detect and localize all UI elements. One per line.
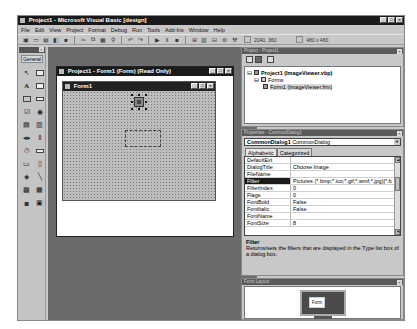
copy-icon[interactable]: ⧉ xyxy=(89,36,97,44)
toolbox-tab-general[interactable]: General xyxy=(21,55,43,63)
dirlistbox-tool-icon[interactable]: ▭ xyxy=(21,159,32,169)
tree-item-form1[interactable]: Form1 (ImageViewer.frm) xyxy=(247,83,398,90)
break-icon[interactable]: ‖ xyxy=(163,36,171,44)
resize-handle[interactable] xyxy=(145,108,147,110)
commondialog-control[interactable] xyxy=(134,97,144,107)
resize-handle[interactable] xyxy=(131,101,133,103)
menu-edit[interactable]: Edit xyxy=(35,27,44,33)
timer-tool-icon[interactable]: ⏱ xyxy=(21,146,32,156)
property-row[interactable]: FilterIndex0 xyxy=(245,185,400,192)
tree-item-forms-folder[interactable]: ⊟ Forms xyxy=(247,76,398,83)
picturebox-tool-icon[interactable] xyxy=(34,68,45,78)
label-tool-icon[interactable]: A xyxy=(21,81,32,91)
minimize-button[interactable]: _ xyxy=(380,17,387,23)
property-row[interactable]: DialogTitleChoose Image xyxy=(245,164,400,171)
properties-titlebar[interactable]: Properties - CommonDialog1 × xyxy=(242,130,403,136)
line-tool-icon[interactable]: ╲ xyxy=(34,172,45,182)
menu-run[interactable]: Run xyxy=(132,27,142,33)
object-selector[interactable]: CommonDialog1 CommonDialog ▼ xyxy=(244,138,401,146)
resize-handle[interactable] xyxy=(131,94,133,96)
tab-categorized[interactable]: Categorized xyxy=(277,148,313,156)
close-button[interactable]: × xyxy=(396,17,403,23)
form-layout-titlebar[interactable]: Form Layout × xyxy=(242,279,403,285)
form-layout-icon[interactable]: ⊟ xyxy=(210,36,218,44)
property-grid-scrollbar[interactable]: ▲ ▼ xyxy=(394,157,400,235)
menu-add-ins[interactable]: Add-Ins xyxy=(165,27,184,33)
menu-tools[interactable]: Tools xyxy=(147,27,160,33)
hscrollbar-tool-icon[interactable]: ◂▸ xyxy=(21,133,32,143)
toolbox-icon[interactable]: ⚒ xyxy=(230,36,238,44)
resize-handle[interactable] xyxy=(131,108,133,110)
property-row[interactable]: Flags0 xyxy=(245,192,400,199)
form-position-preview[interactable]: Form xyxy=(309,297,325,308)
property-row[interactable]: FileName xyxy=(245,171,400,178)
menu-help[interactable]: Help xyxy=(213,27,224,33)
designer-titlebar[interactable]: Project1 - Form1 (Form) (Read Only) _ □ … xyxy=(57,67,233,76)
properties-close-button[interactable]: × xyxy=(397,131,402,136)
collapse-icon[interactable]: ⊟ xyxy=(247,70,252,76)
project-explorer-titlebar[interactable]: Project - Project1 × xyxy=(242,48,403,54)
ole-tool-icon[interactable]: ◙ xyxy=(21,198,32,208)
add-project-icon[interactable]: ▣ xyxy=(22,36,30,44)
open-icon[interactable]: ◧ xyxy=(52,36,60,44)
project-explorer-close-button[interactable]: × xyxy=(397,49,402,54)
vscrollbar-tool-icon[interactable]: ⇕ xyxy=(34,133,45,143)
menu-window[interactable]: Window xyxy=(189,27,209,33)
view-code-icon[interactable] xyxy=(246,56,253,63)
project-explorer-icon[interactable]: ⊞ xyxy=(190,36,198,44)
menu-editor-icon[interactable]: ▤ xyxy=(42,36,50,44)
find-icon[interactable]: ⚲ xyxy=(109,36,117,44)
object-browser-icon[interactable]: ⊛ xyxy=(220,36,228,44)
checkbox-tool-icon[interactable]: ☑ xyxy=(21,107,32,117)
property-row[interactable]: FontSize8 xyxy=(245,220,400,227)
resize-handle[interactable] xyxy=(138,108,140,110)
property-row[interactable]: FontItalicFalse xyxy=(245,206,400,213)
tree-item-project[interactable]: ⊟ Project1 (ImageViewer.vbp) xyxy=(247,69,398,76)
drivelistbox-tool-icon[interactable] xyxy=(34,146,45,156)
undo-icon[interactable]: ↶ xyxy=(126,36,134,44)
menu-project[interactable]: Project xyxy=(66,27,83,33)
main-titlebar[interactable]: Project1 - Microsoft Visual Basic [desig… xyxy=(18,16,404,25)
shape-tool-icon[interactable]: ◈ xyxy=(21,172,32,182)
optionbutton-tool-icon[interactable]: ◉ xyxy=(34,107,45,117)
commandbutton-tool-icon[interactable] xyxy=(34,94,45,104)
form-layout-close-button[interactable]: × xyxy=(397,280,402,285)
end-icon[interactable]: ■ xyxy=(173,36,181,44)
designer-close-button[interactable]: × xyxy=(225,68,232,74)
add-form-icon[interactable]: ▭ xyxy=(32,36,40,44)
commondialog-tool-icon[interactable]: ▣ xyxy=(34,198,45,208)
combobox-tool-icon[interactable]: ▤ xyxy=(21,120,32,130)
textbox-tool-icon[interactable] xyxy=(34,81,45,91)
menu-view[interactable]: View xyxy=(49,27,61,33)
menu-file[interactable]: File xyxy=(21,27,30,33)
save-icon[interactable]: ■ xyxy=(62,36,70,44)
image-control-placeholder[interactable] xyxy=(125,130,161,147)
tab-alphabetic[interactable]: Alphabetic xyxy=(245,148,277,156)
menu-debug[interactable]: Debug xyxy=(111,27,127,33)
menu-format[interactable]: Format xyxy=(88,27,105,33)
listbox-tool-icon[interactable]: ▥ xyxy=(34,120,45,130)
image-tool-icon[interactable]: ▩ xyxy=(21,185,32,195)
toolbox-close-button[interactable]: × xyxy=(39,47,44,52)
collapse-icon[interactable]: ⊟ xyxy=(254,77,259,83)
property-row[interactable]: FontName xyxy=(245,213,400,220)
designer-minimize-button[interactable]: _ xyxy=(209,68,216,74)
scroll-thumb[interactable] xyxy=(395,177,400,191)
properties-icon[interactable]: ▥ xyxy=(200,36,208,44)
frame-tool-icon[interactable] xyxy=(21,94,32,104)
data-tool-icon[interactable]: ▦ xyxy=(34,185,45,195)
toggle-folders-icon[interactable] xyxy=(267,56,274,63)
property-row-selected[interactable]: FilterPictures (*.bmp;*.ico;*.gif;*.wmf;… xyxy=(245,178,400,185)
property-row[interactable]: FontBoldFalse xyxy=(245,199,400,206)
filelistbox-tool-icon[interactable]: ▯ xyxy=(34,159,45,169)
resize-handle[interactable] xyxy=(145,94,147,96)
scroll-up-icon[interactable]: ▲ xyxy=(395,157,400,163)
resize-handle[interactable] xyxy=(138,94,140,96)
pointer-tool-icon[interactable]: ↖ xyxy=(21,68,32,78)
redo-icon[interactable]: ↷ xyxy=(136,36,144,44)
maximize-button[interactable]: □ xyxy=(388,17,395,23)
scroll-down-icon[interactable]: ▼ xyxy=(395,229,400,235)
designer-maximize-button[interactable]: □ xyxy=(217,68,224,74)
paste-icon[interactable]: ▦ xyxy=(99,36,107,44)
chevron-down-icon[interactable]: ▼ xyxy=(394,139,400,145)
